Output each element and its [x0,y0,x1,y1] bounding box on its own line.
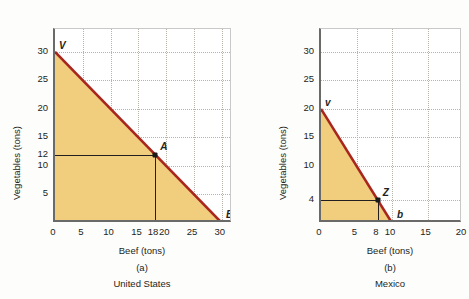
x-tick-label: 20 [159,227,170,237]
production-possibilities-figure: Vegetables (tons) 5101215202530 VAB 0510… [0,0,469,299]
y-tick-label: 20 [303,103,314,113]
curve-point-label-V: V [59,41,66,51]
x-tick-label: 10 [385,227,396,237]
y-axis-title-b: Vegetables (tons) [278,126,288,200]
x-axis-title-a: Beef (tons) [53,246,231,256]
feasible-region-and-frontier [321,29,460,220]
x-tick-labels-b: 058101520 [319,227,461,241]
caption-letter-a: (a) [53,263,231,273]
chart-panel-united-states: Vegetables (tons) 5101215202530 VAB 0510… [0,0,236,299]
caption-name-a: United States [53,279,231,289]
y-axis-title-a: Vegetables (tons) [12,126,22,200]
plot-area-a: VAB [53,28,231,222]
curve-point-label-Z: Z [383,188,389,198]
x-tick-label: 18 [148,227,159,237]
y-tick-label: 5 [43,189,48,199]
curve-point-label-B: B [226,210,230,220]
guide-line-vertical [155,155,156,220]
data-point-marker [153,152,158,157]
x-tick-labels-a: 05101518202530 [53,227,231,241]
x-axis-title-b: Beef (tons) [319,246,461,256]
y-tick-label: 25 [303,75,314,85]
x-tick-label: 20 [456,227,467,237]
guide-line-vertical [378,200,379,220]
y-tick-label: 20 [37,103,48,113]
guide-line-horizontal [55,155,155,156]
y-tick-label: 4 [309,194,314,204]
x-tick-label: 10 [103,227,114,237]
y-tick-label: 25 [37,75,48,85]
x-tick-label: 5 [352,227,357,237]
caption-letter-b: (b) [319,263,461,273]
y-tick-label: 30 [303,46,314,56]
y-tick-label: 15 [303,132,314,142]
x-tick-label: 15 [131,227,142,237]
y-tick-label: 30 [37,46,48,56]
x-tick-label: 8 [373,227,378,237]
y-tick-label: 10 [303,160,314,170]
curve-point-label-v: v [325,98,331,108]
x-tick-label: 15 [420,227,431,237]
plot-area-b: vZb [319,28,461,222]
guide-line-horizontal [321,200,378,201]
data-point-marker [375,198,380,203]
y-tick-label: 10 [37,160,48,170]
y-tick-label: 12 [37,149,48,159]
y-tick-label: 15 [37,132,48,142]
curve-point-label-A: A [160,142,167,152]
x-tick-label: 25 [187,227,198,237]
chart-panel-mexico: Vegetables (tons) 41015202530 vZb 058101… [236,0,469,299]
feasible-region-and-frontier [55,29,230,220]
x-tick-label: 30 [215,227,226,237]
caption-name-b: Mexico [319,279,461,289]
curve-point-label-b: b [397,210,403,220]
x-tick-label: 0 [50,227,55,237]
x-tick-label: 5 [78,227,83,237]
x-tick-label: 0 [316,227,321,237]
